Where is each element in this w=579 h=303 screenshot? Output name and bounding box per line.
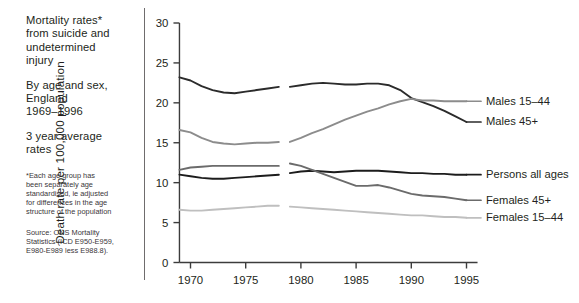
series-line: [179, 77, 278, 93]
series-line: [290, 99, 467, 142]
y-axis-tick-label: 25: [156, 57, 169, 69]
series-line: [290, 164, 467, 201]
y-axis-tick-label: 30: [156, 17, 169, 29]
series-line: [290, 83, 467, 122]
y-axis: 051015202530: [156, 17, 180, 269]
y-axis-tick-label: 15: [156, 137, 169, 149]
series-lines: [179, 77, 466, 218]
series-legend-label: Males 45+: [486, 115, 538, 127]
series-legend-label: Females 15–44: [486, 211, 563, 223]
series-labels: Males 45+Males 15–44Persons all agesFema…: [467, 95, 570, 224]
x-axis-tick-label: 1995: [454, 274, 479, 286]
x-axis-tick-label: 1985: [343, 274, 368, 286]
series-legend-label: Females 45+: [486, 194, 551, 206]
series-legend-label: Persons all ages: [486, 168, 569, 180]
y-axis-tick-label: 20: [156, 97, 169, 109]
series-line: [179, 175, 278, 179]
series-line: [290, 207, 467, 218]
x-axis-tick-label: 1980: [288, 274, 313, 286]
chart-canvas: 051015202530 197019751980198519901995 Ma…: [0, 0, 579, 303]
line-chart: 051015202530 197019751980198519901995 Ma…: [0, 0, 579, 303]
x-axis-tick-label: 1970: [178, 274, 203, 286]
y-axis-tick-label: 5: [162, 217, 168, 229]
x-axis-tick-label: 1990: [399, 274, 424, 286]
series-line: [179, 206, 278, 211]
y-axis-title: Death rate per 100,000 population: [53, 33, 66, 273]
series-legend-label: Males 15–44: [486, 95, 550, 107]
y-axis-tick-label: 0: [162, 257, 168, 269]
x-axis-tick-label: 1975: [233, 274, 258, 286]
x-axis: 197019751980198519901995: [178, 263, 479, 286]
series-line: [179, 166, 278, 170]
figure-root: Mortality rates* from suicide and undete…: [0, 0, 579, 303]
y-axis-tick-label: 10: [156, 177, 169, 189]
series-line: [179, 130, 278, 144]
